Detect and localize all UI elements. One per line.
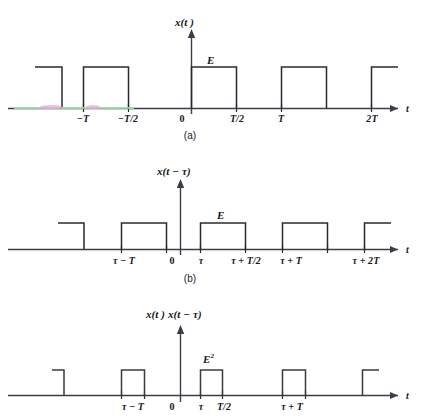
panel-c: x(t ) x(t − τ) t E2 τ − T 0 τ T/2 τ + T — [0, 290, 426, 418]
pulse-c-4 — [283, 370, 306, 396]
x-axis-arrow-a — [390, 105, 398, 112]
panel-b-tick-tau: τ — [199, 255, 204, 266]
panel-c-tick-tau-minus-T: τ − T — [122, 401, 144, 412]
scan-artifact-green-a — [14, 107, 134, 109]
pulse-b-5 — [365, 223, 392, 250]
pulse-b-1 — [58, 223, 84, 250]
y-axis-arrow-b — [177, 179, 184, 188]
panel-c-tick-zero: 0 — [169, 401, 174, 412]
panel-b-amplitude-label: E — [217, 209, 224, 221]
panel-a-tick-neg-T: −T — [77, 113, 89, 124]
y-axis-arrow-c — [177, 325, 184, 334]
panel-b-tick-zero: 0 — [169, 255, 174, 266]
pulse-b-2 — [122, 223, 167, 250]
panel-b-tick-tau-minus-T: τ − T — [113, 255, 135, 266]
panel-c-ylabel-part2: x(t − τ) — [168, 308, 202, 320]
x-axis-arrow-c — [390, 392, 398, 399]
panel-b-xlabel: t — [406, 244, 409, 255]
panel-a-tick-T: T — [278, 113, 284, 124]
panel-a-ylabel: x(t ) — [175, 16, 194, 28]
pulse-c-5 — [363, 370, 380, 396]
pulse-a-2 — [84, 67, 129, 108]
panel-b-tick-tau-plus-T-half: τ + T/2 — [231, 255, 261, 266]
pulse-a-1 — [35, 67, 62, 108]
figure-root: x(t ) t E −T −T/2 0 T/2 T 2T (a) — [0, 0, 426, 418]
panel-c-ylabel: x(t ) x(t − τ) — [146, 308, 202, 320]
panel-a-graphic — [0, 0, 426, 145]
panel-b-caption: (b) — [184, 273, 197, 284]
panel-a-xlabel: t — [406, 103, 409, 114]
panel-c-tick-tau: τ — [199, 401, 204, 412]
panel-a-tick-zero: 0 — [179, 113, 184, 124]
pulse-a-5 — [372, 67, 399, 108]
pulse-b-3 — [201, 223, 246, 250]
panel-b-tick-tau-plus-T: τ + T — [280, 255, 302, 266]
panel-a-tick-neg-T-half: −T/2 — [118, 113, 138, 124]
pulse-c-2 — [122, 370, 145, 396]
panel-c-amplitude-label: E2 — [203, 353, 214, 365]
pulse-b-4 — [283, 223, 328, 250]
y-axis-arrow-a — [188, 29, 195, 38]
pulse-c-3 — [201, 370, 223, 396]
x-axis-arrow-b — [390, 246, 398, 253]
panel-b: x(t − τ) t E τ − T 0 τ τ + T/2 τ + T τ +… — [0, 145, 426, 290]
panel-c-amplitude-exponent: 2 — [210, 352, 214, 360]
pulse-a-3 — [192, 67, 237, 108]
panel-b-ylabel: x(t − τ) — [157, 165, 191, 177]
panel-a-caption: (a) — [184, 130, 197, 141]
panel-a-amplitude-label: E — [207, 54, 214, 66]
panel-b-graphic — [0, 145, 426, 290]
panel-c-tick-tau-plus-T: τ + T — [281, 401, 303, 412]
panel-a-tick-2T: 2T — [366, 113, 377, 124]
pulse-c-1 — [52, 370, 64, 396]
panel-a: x(t ) t E −T −T/2 0 T/2 T 2T (a) — [0, 0, 426, 145]
panel-c-tick-T-half: T/2 — [217, 401, 231, 412]
panel-b-tick-tau-plus-2T: τ + 2T — [353, 255, 380, 266]
pulse-a-4 — [282, 67, 327, 108]
scan-artifact-pink-a2 — [86, 105, 100, 109]
panel-a-tick-T-half: T/2 — [230, 113, 244, 124]
scan-artifact-pink-a — [40, 105, 62, 109]
panel-c-xlabel: t — [406, 390, 409, 401]
panel-c-ylabel-part1: x(t ) — [146, 308, 165, 320]
